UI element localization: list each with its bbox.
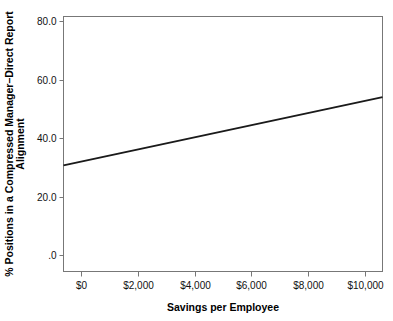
x-tick-label-3: $6,000 [236, 280, 267, 291]
y-tick-label-1: 60.0 [37, 75, 57, 86]
x-tick-label-4: $8,000 [293, 280, 324, 291]
chart-canvas: 80.060.040.020.0.0 $0$2,000$4,000$6,000$… [0, 0, 393, 321]
x-axis-title: Savings per Employee [167, 301, 279, 313]
scatter-chart: 80.060.040.020.0.0 $0$2,000$4,000$6,000$… [0, 0, 393, 321]
x-tick-label-0: $0 [76, 280, 88, 291]
plot-frame [64, 17, 383, 272]
y-tick-label-0: 80.0 [37, 16, 57, 27]
y-tick-label-4: .0 [48, 250, 57, 261]
x-tick-label-1: $2,000 [123, 280, 154, 291]
y-tick-label-2: 40.0 [37, 133, 57, 144]
y-axis-tick-labels: 80.060.040.020.0.0 [37, 16, 57, 261]
y-axis-title-line2: Alignment [14, 118, 26, 170]
x-tick-label-2: $4,000 [180, 280, 211, 291]
regression-line [64, 97, 383, 165]
y-axis-ticks [60, 22, 64, 256]
trend-line [64, 97, 383, 165]
x-tick-label-5: $10,000 [347, 280, 384, 291]
x-axis-ticks [82, 272, 366, 277]
y-axis-title: % Positions in a Compressed Manager–Dire… [3, 11, 26, 277]
y-tick-label-3: 20.0 [37, 192, 57, 203]
x-axis-tick-labels: $0$2,000$4,000$6,000$8,000$10,000 [76, 280, 384, 291]
